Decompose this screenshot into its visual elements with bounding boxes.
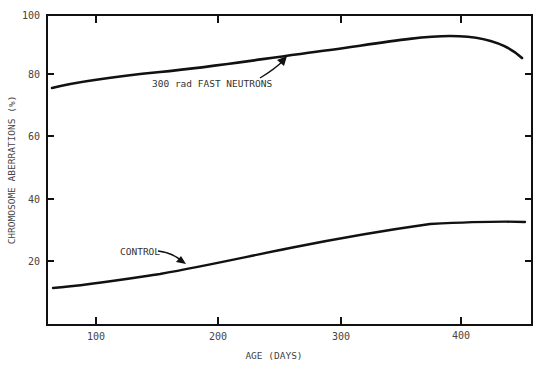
y-tick-labels: 100 80 60 40 20 <box>22 10 40 267</box>
svg-text:40: 40 <box>28 194 40 205</box>
y-axis-label: CHROMOSOME ABERRATIONS (%) <box>6 96 17 245</box>
plot-frame <box>47 15 532 325</box>
annotation-neutrons: 300 rad FAST NEUTRONS <box>152 78 272 89</box>
x-tick-labels: 100 200 300 400 <box>87 330 470 342</box>
svg-text:80: 80 <box>28 69 40 80</box>
series-line-neutrons <box>52 36 522 88</box>
x-axis-ticks-top <box>96 15 461 23</box>
x-axis-label: AGE (DAYS) <box>245 350 302 361</box>
svg-text:100: 100 <box>22 10 40 21</box>
y-axis-ticks-right <box>525 74 532 261</box>
svg-text:20: 20 <box>28 256 40 267</box>
y-axis-ticks <box>47 74 54 261</box>
chart: 100 80 60 40 20 100 200 300 400 AGE (DAY… <box>0 0 535 365</box>
annotation-control: CONTROL <box>120 246 160 257</box>
svg-text:200: 200 <box>209 331 227 342</box>
svg-text:300: 300 <box>332 331 350 342</box>
svg-text:60: 60 <box>28 131 40 142</box>
svg-text:100: 100 <box>87 331 105 342</box>
svg-text:400: 400 <box>452 330 470 341</box>
x-axis-ticks <box>96 317 461 325</box>
